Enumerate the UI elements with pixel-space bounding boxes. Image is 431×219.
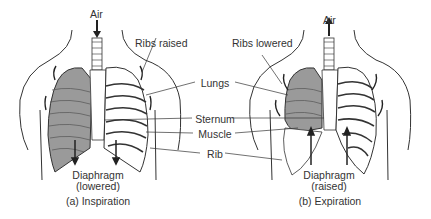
air-in-arrow-icon <box>93 20 101 38</box>
caption-expiration: (b) Expiration <box>290 195 370 207</box>
lower-rib-cage-right-left <box>284 128 322 175</box>
diaphragm-state-inspiration: (lowered) <box>68 180 128 192</box>
trachea-left <box>92 38 102 70</box>
sternum-right <box>322 70 338 130</box>
ribs-raised-label: Ribs raised <box>135 37 188 49</box>
breathing-diagram <box>0 0 431 219</box>
air-label-inspiration: Air <box>90 8 103 20</box>
diaphragm-state-expiration: (raised) <box>299 180 359 192</box>
muscle-label: Muscle <box>192 128 238 140</box>
trachea-right <box>324 38 334 70</box>
rib-label: Rib <box>200 148 230 160</box>
caption-inspiration: (a) Inspiration <box>58 195 138 207</box>
lungs-label: Lungs <box>195 77 235 89</box>
air-label-expiration: Air <box>323 14 336 26</box>
sternum-label: Sternum <box>190 113 240 125</box>
sternum-left <box>90 70 106 140</box>
left-lung-shaded <box>48 68 92 172</box>
ribs-lowered-label: Ribs lowered <box>232 37 293 49</box>
right-lung-shaded <box>285 68 322 132</box>
